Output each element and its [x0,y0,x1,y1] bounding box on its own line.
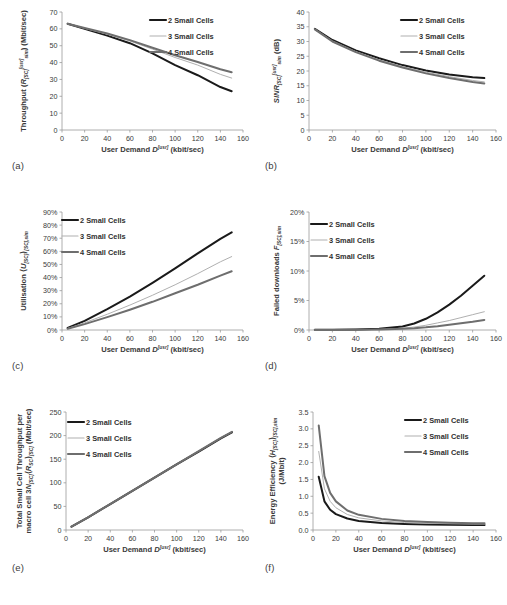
svg-text:0: 0 [60,134,64,143]
svg-text:60%: 60% [43,247,58,256]
svg-text:100: 100 [50,478,62,487]
svg-text:60: 60 [378,534,386,543]
chart-e-svg: 0501001502002500204060801001201401602 Sm… [0,400,253,578]
svg-text:1.5: 1.5 [299,475,309,484]
panel-d: 0%5%10%15%20%0204060801001201401602 Smal… [253,200,506,400]
svg-text:3 Small Cells: 3 Small Cells [168,32,214,41]
svg-text:0: 0 [58,526,62,535]
svg-text:0: 0 [54,126,58,135]
panel-f-plot: 0.00.51.01.52.02.53.03.50204060801001201… [253,400,506,578]
svg-text:70%: 70% [43,234,58,243]
svg-text:4 Small Cells: 4 Small Cells [86,450,132,459]
panel-c-tag: (c) [12,360,24,371]
svg-text:160: 160 [490,134,502,143]
svg-text:3 Small Cells: 3 Small Cells [423,432,469,441]
svg-text:120: 120 [192,334,204,343]
svg-text:200: 200 [50,431,62,440]
svg-text:80: 80 [399,134,407,143]
svg-text:3 Small Cells: 3 Small Cells [86,434,132,443]
svg-text:160: 160 [490,334,502,343]
svg-text:User Demand D[usr] (kbit/sec): User Demand D[usr] (kbit/sec) [351,345,454,354]
panel-b: 05101520253035400204060801001201401602 S… [253,0,506,200]
svg-text:4 Small Cells: 4 Small Cells [168,48,214,57]
svg-text:160: 160 [237,334,249,343]
svg-text:70: 70 [50,8,58,17]
svg-text:40: 40 [297,8,305,17]
svg-text:0.0: 0.0 [299,526,309,535]
svg-text:100: 100 [169,334,181,343]
svg-text:15%: 15% [290,237,305,246]
svg-text:10: 10 [50,109,58,118]
svg-text:60: 60 [126,334,134,343]
svg-text:20: 20 [81,134,89,143]
chart-d-svg: 0%5%10%15%20%0204060801001201401602 Smal… [253,200,506,378]
svg-text:40: 40 [352,334,360,343]
svg-text:140: 140 [467,534,479,543]
svg-text:2.5: 2.5 [299,441,309,450]
svg-text:20: 20 [332,534,340,543]
svg-text:20: 20 [84,534,92,543]
chart-c-svg: 0%10%20%30%40%50%60%70%80%90%02040608010… [0,200,253,378]
svg-text:10%: 10% [290,267,305,276]
svg-text:20: 20 [50,92,58,101]
svg-text:60: 60 [128,534,136,543]
svg-text:Failed downloads F[SC],sim: Failed downloads F[SC],sim [272,225,282,316]
panel-a-plot: 0102030405060700204060801001201401602 Sm… [0,0,253,178]
svg-text:1.0: 1.0 [299,492,309,501]
svg-text:0: 0 [64,534,68,543]
svg-text:0%: 0% [47,326,58,335]
svg-text:2 Small Cells: 2 Small Cells [329,220,375,229]
svg-text:User Demand D[usr] (kbit/sec): User Demand D[usr] (kbit/sec) [103,545,206,554]
svg-text:60: 60 [126,134,134,143]
svg-text:50: 50 [54,502,62,511]
chart-a-svg: 0102030405060700204060801001201401602 Sm… [0,0,253,178]
panel-c-plot: 0%10%20%30%40%50%60%70%80%90%02040608010… [0,200,253,378]
panel-a: 0102030405060700204060801001201401602 Sm… [0,0,253,200]
svg-text:4 Small Cells: 4 Small Cells [80,248,126,257]
svg-text:40: 40 [50,58,58,67]
svg-text:140: 140 [467,134,479,143]
svg-text:2 Small Cells: 2 Small Cells [423,416,469,425]
svg-text:SINR[SC][usr]sim (dB): SINR[SC][usr]sim (dB) [272,38,282,103]
svg-text:2.0: 2.0 [299,458,309,467]
svg-text:0: 0 [301,126,305,135]
svg-text:80: 80 [399,334,407,343]
svg-text:4 Small Cells: 4 Small Cells [329,252,375,261]
svg-text:40: 40 [103,134,111,143]
svg-text:60: 60 [50,24,58,33]
svg-text:40%: 40% [43,273,58,282]
svg-text:20: 20 [328,134,336,143]
svg-text:40: 40 [352,134,360,143]
svg-text:60: 60 [375,134,383,143]
svg-text:Utilisation ⟨U[SC]⟩[SC],sim: Utilisation ⟨U[SC]⟩[SC],sim [19,230,29,310]
svg-text:Total Small Cell Throughput pe: Total Small Cell Throughput per [15,414,24,529]
svg-text:0%: 0% [294,326,305,335]
chart-f-svg: 0.00.51.01.52.02.53.03.50204060801001201… [253,400,506,578]
svg-text:5: 5 [301,111,305,120]
svg-text:30%: 30% [43,286,58,295]
svg-text:20%: 20% [43,299,58,308]
svg-text:140: 140 [214,334,226,343]
svg-text:80: 80 [151,534,159,543]
svg-text:User Demand D[usr] (kbit/sec): User Demand D[usr] (kbit/sec) [101,145,204,154]
svg-text:90%: 90% [43,208,58,217]
svg-text:80%: 80% [43,221,58,230]
panel-c: 0%10%20%30%40%50%60%70%80%90%02040608010… [0,200,253,400]
svg-text:3 Small Cells: 3 Small Cells [329,236,375,245]
svg-text:Throughput (R[SC][usr]sim) (Mb: Throughput (R[SC][usr]sim) (Mbit/sec) [19,10,29,132]
svg-text:3.5: 3.5 [299,408,309,417]
svg-text:100: 100 [420,134,432,143]
svg-text:4 Small Cells: 4 Small Cells [419,48,465,57]
svg-text:120: 120 [193,534,205,543]
svg-text:160: 160 [490,534,502,543]
svg-text:35: 35 [297,22,305,31]
svg-text:150: 150 [50,455,62,464]
svg-text:2 Small Cells: 2 Small Cells [80,216,126,225]
svg-text:2 Small Cells: 2 Small Cells [168,16,214,25]
svg-text:120: 120 [443,134,455,143]
panel-e-plot: 0501001502002500204060801001201401602 Sm… [0,400,253,578]
svg-text:40: 40 [106,534,114,543]
svg-text:3 Small Cells: 3 Small Cells [419,32,465,41]
svg-text:3.0: 3.0 [299,424,309,433]
svg-text:100: 100 [420,334,432,343]
